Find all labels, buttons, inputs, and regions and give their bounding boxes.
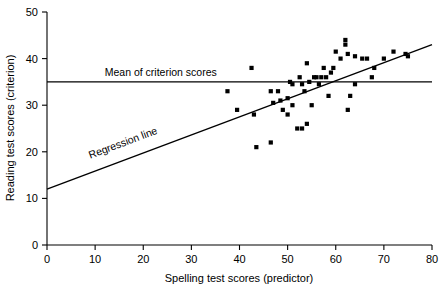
data-point [331,66,335,70]
data-point [269,89,273,93]
data-point [338,57,342,61]
data-point [290,82,294,86]
data-point [346,52,350,56]
data-point [382,57,386,61]
data-point [317,82,321,86]
data-point [276,89,280,93]
data-point [348,94,352,98]
data-point [360,57,364,61]
data-point [307,80,311,84]
data-point [302,89,306,93]
data-point [319,75,323,79]
data-point [300,82,304,86]
x-axis-title: Spelling test scores (predictor) [165,272,314,284]
data-point [329,70,333,74]
data-point [300,126,304,130]
data-point [322,66,326,70]
data-point [314,75,318,79]
scatter-chart: 01020304050607080 01020304050 Spelling t… [0,0,448,288]
x-tick-label: 10 [89,253,101,265]
y-tick-label: 20 [26,146,38,158]
data-point [391,50,395,54]
data-point [353,82,357,86]
data-point [298,75,302,79]
y-tick-label: 40 [26,53,38,65]
y-axis-title: Reading test scores (criterion) [4,55,16,202]
data-point [269,140,273,144]
data-point [326,94,330,98]
x-tick-label: 30 [185,253,197,265]
x-tick-label: 60 [330,253,342,265]
regression-line-label: Regression line [87,124,159,161]
chart-canvas: 01020304050607080 01020304050 Spelling t… [0,0,448,288]
data-point [324,75,328,79]
data-point [305,61,309,65]
data-point [406,54,410,58]
x-tick-label: 40 [233,253,245,265]
data-point [343,43,347,47]
data-point [290,103,294,107]
x-tick-label: 50 [282,253,294,265]
data-point [225,89,229,93]
y-tick-label: 50 [26,6,38,18]
data-point [286,112,290,116]
data-point [281,108,285,112]
data-point [286,96,290,100]
x-axis-ticks: 01020304050607080 [44,245,438,265]
axes-group [47,12,432,245]
data-point [249,66,253,70]
plot-area [47,38,432,189]
data-point [271,101,275,105]
data-point [343,38,347,42]
x-tick-label: 0 [44,253,50,265]
data-point [370,75,374,79]
y-tick-label: 30 [26,99,38,111]
x-tick-label: 80 [426,253,438,265]
y-tick-label: 0 [32,239,38,251]
y-axis-ticks: 01020304050 [26,6,47,251]
data-point [310,103,314,107]
data-point [295,126,299,130]
data-point [334,50,338,54]
mean-line-label: Mean of criterion scores [105,66,217,78]
x-tick-label: 70 [378,253,390,265]
chart-annotations: Mean of criterion scoresRegression line [87,66,217,161]
y-tick-label: 10 [26,192,38,204]
data-point [278,98,282,102]
data-point [372,66,376,70]
data-point [254,145,258,149]
data-point [235,108,239,112]
data-point [353,54,357,58]
data-point [305,122,309,126]
data-point [252,112,256,116]
data-point [346,108,350,112]
data-point [365,57,369,61]
x-tick-label: 20 [137,253,149,265]
